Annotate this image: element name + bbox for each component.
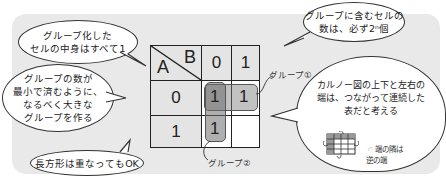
bubble-tail [104, 90, 128, 106]
bubble-tail [118, 50, 148, 70]
bubble-all-ones-text: グループ化した セルの中身はすべて1 [30, 29, 125, 55]
bubble-power-of-two: グループに含むセルの 数は、必ず2ⁿ個 [303, 2, 405, 42]
cell-value-a0-b1: 1 [239, 87, 248, 107]
row-header-1: 1 [151, 116, 202, 148]
bubble-minimize-groups-text: グループの数が 最小で済むように、 なるべく大きな グループを作る [13, 72, 103, 124]
bubble-wraparound-text: カルノー図の上下と左右の 端は、つながって連続した 表だと考える [317, 79, 425, 118]
bubble-tail [270, 106, 300, 126]
cell-value-a0-b0: 1 [210, 87, 219, 107]
mini-kmap-icon [323, 131, 359, 159]
row-variable: A [157, 57, 169, 78]
cell-value-a1-b0: 1 [210, 119, 219, 139]
group-1-label: グループ① [269, 68, 312, 80]
bubble-overlap-ok-text: 長方形は重なってもOK [35, 157, 139, 170]
bubble-minimize-groups: グループの数が 最小で済むように、 なるべく大きな グループを作る [2, 64, 114, 132]
row-header-0: 0 [151, 81, 202, 116]
col-variable: B [184, 47, 196, 68]
col-header-0: 0 [202, 46, 232, 81]
cell-a1-b1 [232, 116, 260, 148]
bubble-tail [118, 138, 134, 154]
bubble-tail [282, 30, 312, 50]
kmap-corner: A B [151, 46, 202, 81]
bubble-power-of-two-text: グループに含むセルの 数は、必ず2ⁿ個 [305, 9, 404, 35]
group-2-label: グループ② [208, 156, 251, 168]
mini-note: ☜ 端の隣は 逆の端 [366, 144, 403, 166]
